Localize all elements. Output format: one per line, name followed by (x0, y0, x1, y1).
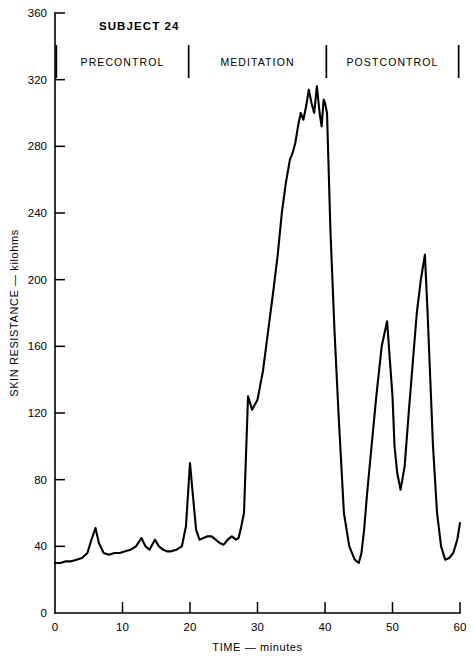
y-axis-tick-labels: 04080120160200240280320360 (28, 7, 47, 619)
y-tick-label: 160 (28, 340, 47, 352)
phase-labels-group: PRECONTROLMEDITATIONPOSTCONTROL (81, 56, 439, 68)
page-title: SUBJECT 24 (99, 20, 180, 32)
x-tick-label: 40 (319, 621, 332, 633)
y-tick-label: 0 (41, 607, 47, 619)
x-tick-label: 10 (116, 621, 129, 633)
x-axis-title: TIME — minutes (212, 641, 302, 653)
x-tick-label: 50 (386, 621, 399, 633)
skin-resistance-line-chart: 04080120160200240280320360 0102030405060… (0, 0, 473, 662)
y-tick-label: 280 (28, 140, 47, 152)
y-axis-ticks (55, 13, 65, 546)
y-tick-label: 240 (28, 207, 47, 219)
x-tick-label: 30 (251, 621, 264, 633)
phase-label: MEDITATION (220, 56, 294, 68)
x-tick-label: 20 (184, 621, 197, 633)
data-series-line (55, 86, 460, 563)
phase-label: PRECONTROL (81, 56, 165, 68)
y-tick-label: 320 (28, 74, 47, 86)
y-tick-label: 80 (34, 474, 47, 486)
phase-label: POSTCONTROL (346, 56, 438, 68)
chart-container: 04080120160200240280320360 0102030405060… (0, 0, 473, 662)
y-tick-label: 120 (28, 407, 47, 419)
x-tick-label: 0 (52, 621, 58, 633)
y-tick-label: 360 (28, 7, 47, 19)
y-axis-title: SKIN RESISTANCE — kilohms (8, 229, 20, 397)
axes-group (55, 13, 460, 613)
x-tick-label: 60 (454, 621, 467, 633)
x-axis-tick-labels: 0102030405060 (52, 621, 467, 633)
x-axis-ticks (123, 602, 461, 613)
y-tick-label: 200 (28, 274, 47, 286)
y-tick-label: 40 (34, 540, 47, 552)
